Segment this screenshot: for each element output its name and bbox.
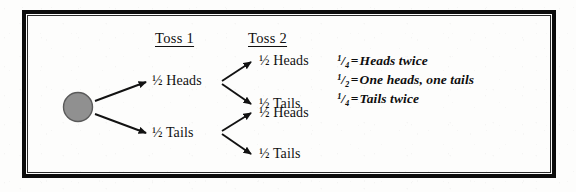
node-label-toss2-heads-heads: ½ Heads bbox=[259, 54, 309, 68]
node-label-toss1-tails: ½ Tails bbox=[152, 126, 193, 140]
legend-text-1: Heads twice bbox=[360, 53, 428, 68]
root-coin-node bbox=[64, 93, 93, 122]
column-heading-toss-1: Toss 1 bbox=[155, 31, 194, 46]
branch-root-to-heads bbox=[95, 82, 146, 101]
legend-equals-3: = bbox=[350, 91, 360, 106]
branch-tails-to-heads bbox=[222, 113, 251, 131]
legend-fraction-1: ¹/₄ bbox=[337, 53, 350, 68]
branch-heads-to-heads bbox=[222, 62, 251, 81]
legend-text-3: Tails twice bbox=[360, 91, 419, 106]
legend-row-heads-twice: ¹/₄=Heads twice bbox=[337, 53, 428, 69]
legend-row-one-heads-one-tails: ¹/₂=One heads, one tails bbox=[337, 72, 474, 88]
node-label-toss1-heads: ½ Heads bbox=[152, 74, 202, 88]
branch-heads-to-tails bbox=[222, 84, 251, 104]
branch-tails-to-tails bbox=[222, 134, 251, 154]
legend-equals-2: = bbox=[350, 72, 360, 87]
column-heading-toss-2: Toss 2 bbox=[248, 31, 287, 46]
legend-equals-1: = bbox=[350, 53, 360, 68]
coin-toss-probability-tree-figure: Toss 1 Toss 2 ½ Heads ½ Tails ½ Heads ½ … bbox=[0, 0, 576, 192]
legend-fraction-3: ¹/₄ bbox=[337, 91, 350, 106]
legend-text-2: One heads, one tails bbox=[360, 72, 475, 87]
branch-root-to-tails bbox=[95, 114, 146, 133]
legend-fraction-2: ¹/₂ bbox=[337, 72, 350, 87]
node-label-toss2-tails-heads: ½ Heads bbox=[259, 106, 309, 120]
node-label-toss2-tails-tails: ½ Tails bbox=[259, 147, 300, 161]
diagram-stage: Toss 1 Toss 2 ½ Heads ½ Tails ½ Heads ½ … bbox=[0, 0, 576, 192]
legend-row-tails-twice: ¹/₄=Tails twice bbox=[337, 91, 419, 107]
